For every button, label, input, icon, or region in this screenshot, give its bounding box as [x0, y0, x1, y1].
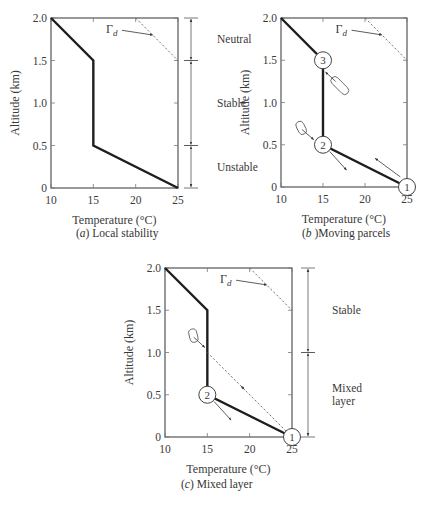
gamma-d-label: Γd — [106, 22, 118, 38]
caption-text: Local stability — [92, 227, 158, 239]
dashed-adiabat-line — [207, 353, 292, 438]
region-label: Mixed — [332, 382, 362, 394]
y-tick-label: 0 — [271, 181, 277, 193]
region-label: Neutral — [217, 33, 251, 45]
y-tick-label: 2.0 — [33, 12, 48, 24]
x-tick-label: 10 — [159, 443, 171, 455]
gamma-d-subscript: d — [227, 278, 232, 288]
x-tick-label: 15 — [317, 193, 329, 205]
stability-figure-svg: 1015202500.51.01.52.0Temperature (°C)Alt… — [0, 0, 424, 507]
x-axis-label: Temperature (°C) — [72, 213, 156, 227]
x-tick-label: 20 — [359, 193, 371, 205]
y-tick-label: 1.5 — [263, 54, 278, 66]
temperature-profile-line — [165, 268, 292, 437]
plot-frame — [281, 18, 407, 187]
y-tick-label: 1.0 — [263, 97, 278, 109]
x-tick-label: 10 — [275, 193, 287, 205]
caption-c: (c) Mixed layer — [181, 478, 253, 490]
temperature-profile-line — [281, 18, 407, 187]
x-tick-label: 20 — [130, 194, 142, 206]
plot-local-stability: 1015202500.51.01.52.0Temperature (°C)Alt… — [8, 12, 258, 227]
y-tick-label: 0.5 — [33, 140, 48, 152]
dashed-adiabat-line — [250, 268, 292, 310]
return-loop — [295, 120, 308, 136]
y-axis-label: Altitude (km) — [238, 70, 252, 136]
x-tick-label: 15 — [202, 443, 214, 455]
caption-text: Mixed layer — [197, 478, 253, 490]
y-axis-label: Altitude (km) — [122, 320, 136, 386]
parcel-number: 1 — [404, 181, 410, 193]
dashed-adiabat-line — [136, 18, 178, 61]
x-tick-label: 10 — [45, 194, 57, 206]
plot-frame — [51, 18, 178, 188]
y-tick-label: 1.0 — [33, 97, 48, 109]
caption-a: (a) Local stability — [76, 227, 158, 239]
x-tick-label: 20 — [244, 443, 256, 455]
gamma-d-subscript: d — [113, 28, 118, 38]
parcel-number: 3 — [320, 54, 326, 66]
x-tick-label: 25 — [172, 194, 184, 206]
caption-paren: ) — [190, 478, 197, 490]
y-tick-label: 2.0 — [263, 12, 278, 24]
region-label: Stable — [332, 304, 361, 316]
gamma-d-subscript: d — [343, 28, 348, 38]
parcel-motion-arrow — [241, 386, 244, 389]
y-axis-label: Altitude (km) — [8, 70, 22, 136]
parcel-number: 2 — [205, 389, 211, 401]
y-tick-label: 0.5 — [147, 389, 162, 401]
plot-mixed-layer: 1015202500.51.01.52.0Temperature (°C)Alt… — [122, 262, 362, 476]
y-tick-label: 0 — [155, 431, 161, 443]
temperature-profile-line — [51, 18, 178, 188]
y-tick-label: 0.5 — [263, 139, 278, 151]
parcel-number: 2 — [320, 139, 326, 151]
dashed-adiabat-line — [365, 18, 407, 60]
caption-text: Moving parcels — [318, 227, 390, 239]
gamma-d-label: Γd — [220, 272, 232, 288]
region-label: Unstable — [217, 161, 258, 173]
x-axis-label: Temperature (°C) — [302, 212, 386, 226]
figure: 1015202500.51.01.52.0Temperature (°C)Alt… — [0, 0, 424, 507]
plot-frame — [165, 268, 292, 437]
y-tick-label: 1.5 — [147, 304, 162, 316]
y-tick-label: 0 — [41, 182, 47, 194]
gamma-d-label: Γd — [336, 22, 348, 38]
y-tick-label: 1.5 — [33, 55, 48, 67]
x-axis-label: Temperature (°C) — [186, 462, 270, 476]
region-label: layer — [332, 395, 355, 408]
x-tick-label: 15 — [88, 194, 100, 206]
y-tick-label: 1.0 — [147, 347, 162, 359]
parcel-number: 1 — [289, 431, 295, 443]
plot-moving-parcels: 1015202500.51.01.52.0Temperature (°C)Alt… — [238, 12, 416, 226]
caption-b: (b )Moving parcels — [302, 227, 390, 239]
y-tick-label: 2.0 — [147, 262, 162, 274]
